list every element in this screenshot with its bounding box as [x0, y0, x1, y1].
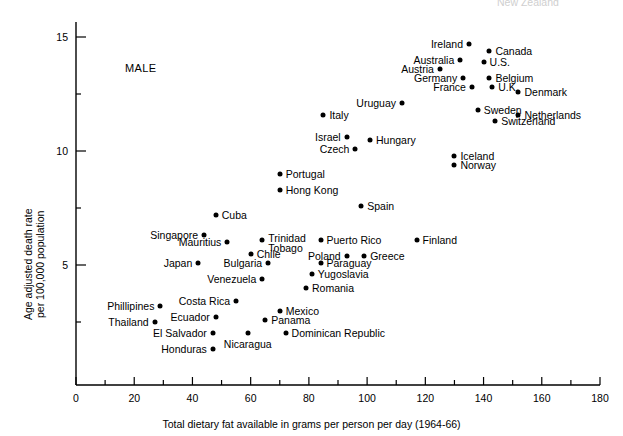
x-tick-label: 80: [303, 392, 315, 404]
data-point-label: Venezuela: [207, 273, 256, 284]
data-point[interactable]: [152, 320, 157, 325]
data-point[interactable]: [467, 41, 472, 46]
data-point-label: Portugal: [286, 168, 325, 179]
data-point[interactable]: [400, 101, 405, 106]
x-tick-label: 0: [73, 392, 79, 404]
data-point[interactable]: [213, 212, 218, 217]
data-point-label: Costa Rica: [179, 296, 230, 307]
data-point-label: Romania: [312, 282, 354, 293]
data-point-label: Finland: [423, 234, 457, 245]
x-axis-label: Total dietary fat available in grams per…: [0, 418, 623, 430]
data-point-label: Norway: [460, 159, 496, 170]
data-point-label: Switzerland: [501, 116, 555, 127]
data-point-label: Canada: [495, 45, 532, 56]
data-point-label: Spain: [367, 200, 394, 211]
data-point[interactable]: [414, 237, 419, 242]
data-point-label: Ecuador: [171, 312, 210, 323]
data-point[interactable]: [225, 240, 230, 245]
data-point[interactable]: [303, 285, 308, 290]
data-point-label: Hong Kong: [286, 184, 339, 195]
data-point-label: Dominican Republic: [292, 328, 385, 339]
x-tick-label: 100: [358, 392, 376, 404]
data-point[interactable]: [234, 299, 239, 304]
x-tick-label: 120: [417, 392, 435, 404]
data-point-label: Paraguay: [327, 257, 372, 268]
data-point[interactable]: [359, 203, 364, 208]
data-point[interactable]: [368, 137, 373, 142]
data-point-label: Japan: [164, 257, 193, 268]
data-point-label: Thailand: [108, 317, 148, 328]
data-point[interactable]: [469, 85, 474, 90]
y-tick-label: 5: [62, 259, 68, 271]
data-point[interactable]: [490, 85, 495, 90]
data-point[interactable]: [452, 162, 457, 167]
y-tick-label: 10: [56, 145, 68, 157]
x-tick-label: 40: [187, 392, 199, 404]
data-point-label: Panama: [271, 314, 310, 325]
data-point[interactable]: [260, 237, 265, 242]
x-tick-label: 20: [128, 392, 140, 404]
data-point[interactable]: [318, 237, 323, 242]
data-point-label: Phillipines: [107, 301, 154, 312]
data-point-label: U.S.: [490, 57, 510, 68]
data-point[interactable]: [344, 135, 349, 140]
data-point-label: Israel: [315, 132, 341, 143]
data-point[interactable]: [487, 76, 492, 81]
data-point[interactable]: [516, 89, 521, 94]
data-point-label: Nicaragua: [224, 339, 272, 350]
x-tick-label: 140: [475, 392, 493, 404]
data-point-label: Greece: [370, 250, 404, 261]
y-axis-label: Age adjusted death rate per 100,000 popu…: [22, 208, 46, 320]
data-point[interactable]: [266, 260, 271, 265]
data-point[interactable]: [210, 347, 215, 352]
data-point-label: Uruguay: [356, 98, 396, 109]
y-axis-label-line1: Age adjusted death rate: [22, 208, 34, 320]
data-point-label: Cuba: [222, 209, 247, 220]
data-point[interactable]: [260, 276, 265, 281]
x-tick-label: 180: [591, 392, 609, 404]
scatter-plot-figure: 02040608010012014016018051015 IrelandCan…: [0, 0, 623, 436]
y-tick-label: 15: [56, 31, 68, 43]
x-tick-label: 160: [533, 392, 551, 404]
data-point-label: El Salvador: [153, 328, 207, 339]
data-point[interactable]: [458, 57, 463, 62]
data-point-label: Honduras: [161, 344, 207, 355]
data-point[interactable]: [353, 146, 358, 151]
data-point[interactable]: [283, 331, 288, 336]
data-point-label: Ireland: [431, 38, 463, 49]
data-point[interactable]: [277, 171, 282, 176]
data-point[interactable]: [210, 331, 215, 336]
plot-axes: [0, 0, 623, 436]
data-point-label: Yugoslavia: [318, 269, 369, 280]
data-point[interactable]: [263, 317, 268, 322]
data-point-label: Denmark: [524, 86, 567, 97]
data-point[interactable]: [277, 187, 282, 192]
data-point-label: France: [433, 82, 466, 93]
data-point-label: Hungary: [376, 134, 416, 145]
data-point-label: Mauritius: [179, 237, 222, 248]
data-point[interactable]: [493, 119, 498, 124]
data-point[interactable]: [245, 331, 250, 336]
data-point[interactable]: [475, 107, 480, 112]
data-point[interactable]: [481, 60, 486, 65]
data-point[interactable]: [196, 260, 201, 265]
data-point-label: Czech: [320, 143, 350, 154]
data-point[interactable]: [309, 272, 314, 277]
data-point-label: Puerto Rico: [327, 234, 382, 245]
data-point[interactable]: [321, 112, 326, 117]
x-tick-label: 60: [245, 392, 257, 404]
data-point-label: Bulgaria: [224, 257, 263, 268]
data-point[interactable]: [452, 153, 457, 158]
data-point[interactable]: [158, 304, 163, 309]
data-point-label: Italy: [329, 109, 348, 120]
data-point[interactable]: [213, 315, 218, 320]
male-annotation: MALE: [125, 62, 157, 74]
new-zealand-clipped-label: New Zealand: [497, 0, 559, 8]
data-point[interactable]: [487, 48, 492, 53]
data-point[interactable]: [318, 260, 323, 265]
y-axis-label-line2: per 100,000 population: [34, 208, 46, 320]
